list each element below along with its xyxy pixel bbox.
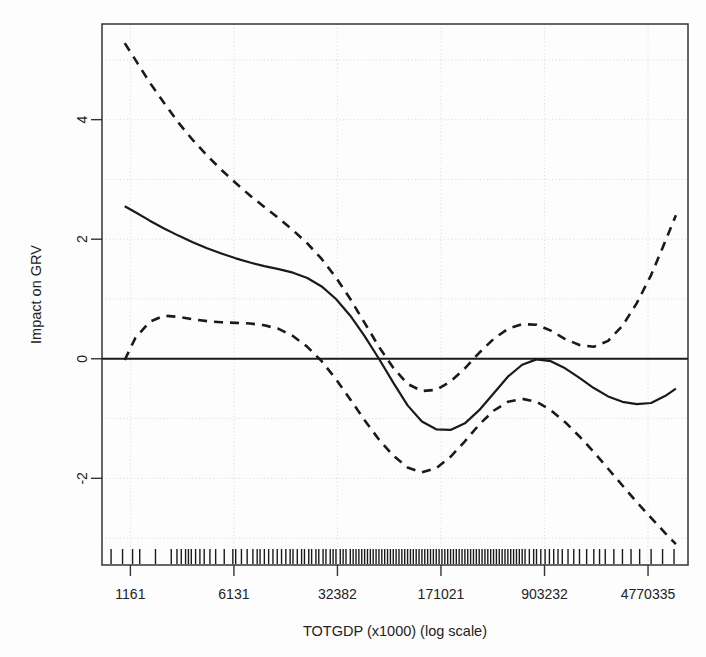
y-tick-label: 0 (74, 355, 90, 363)
y-tick-label: 2 (74, 235, 90, 243)
figure-canvas: 11616131323821710219032324770335-2024 TO… (0, 0, 706, 657)
x-tick-label: 903232 (521, 586, 568, 602)
gam-smooth-plot: 11616131323821710219032324770335-2024 TO… (0, 0, 706, 657)
plot-frame (102, 24, 688, 565)
x-tick-label: 32382 (318, 586, 357, 602)
x-tick-label: 171021 (418, 586, 465, 602)
confidence-band-lower (125, 316, 676, 544)
x-axis-title: TOTGDP (x1000) (log scale) (303, 623, 487, 639)
y-tick-label: 4 (74, 116, 90, 124)
axis-ticks (91, 120, 648, 576)
x-tick-label: 6131 (218, 586, 249, 602)
y-axis-title: Impact on GRV (28, 245, 44, 344)
rug-marks (111, 549, 674, 564)
y-tick-label: -2 (74, 472, 90, 485)
grid-lines (102, 24, 688, 565)
smooth-estimate-curve (125, 206, 676, 430)
confidence-band-upper (125, 43, 676, 391)
x-tick-label: 1161 (115, 586, 145, 602)
x-tick-label: 4770335 (621, 586, 676, 602)
